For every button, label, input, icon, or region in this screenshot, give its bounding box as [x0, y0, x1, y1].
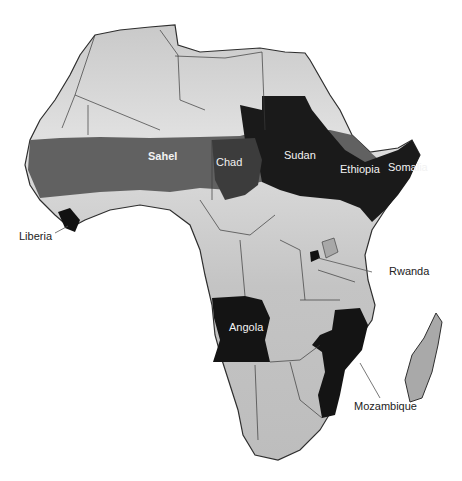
label-sudan: Sudan	[284, 150, 316, 161]
label-rwanda: Rwanda	[389, 266, 429, 277]
label-somalia: Somalia	[388, 162, 428, 173]
label-mozambique: Mozambique	[354, 401, 417, 412]
label-ethiopia: Ethiopia	[340, 164, 380, 175]
continent-landmass	[25, 25, 420, 460]
madagascar	[405, 313, 442, 402]
label-angola: Angola	[229, 322, 263, 333]
label-chad: Chad	[216, 157, 242, 168]
label-liberia: Liberia	[19, 231, 52, 242]
label-sahel: Sahel	[148, 151, 177, 162]
